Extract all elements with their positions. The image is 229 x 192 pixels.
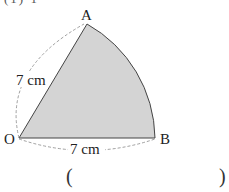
sector-diagram [0,0,229,192]
point-label-o: O [4,132,15,147]
answer-close-paren: ) [219,166,226,186]
length-label-ob: 7 cm [70,142,100,157]
point-label-a: A [81,8,92,23]
length-label-oa: 7 cm [16,73,46,88]
answer-open-paren: ( [66,166,73,186]
point-label-b: B [160,132,170,147]
